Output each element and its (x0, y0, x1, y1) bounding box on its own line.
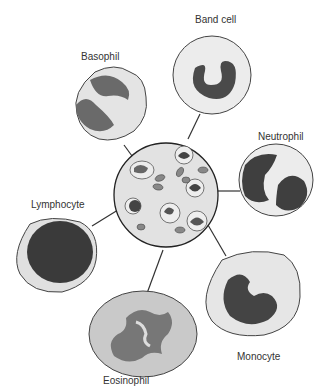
label-monocyte: Monocyte (237, 351, 280, 362)
label-lymphocyte: Lymphocyte (31, 199, 85, 210)
lymphocyte-illustration (17, 218, 97, 292)
label-eosinophil: Eosinophil (103, 375, 149, 386)
basophil-illustration (76, 67, 147, 140)
label-neutrophil: Neutrophil (258, 131, 304, 142)
eosinophil-illustration (89, 291, 197, 377)
blood-smear-circle (114, 143, 218, 247)
band-cell-illustration (173, 36, 251, 114)
neutrophil-illustration (239, 144, 313, 216)
diagram-canvas (0, 0, 331, 388)
monocyte-illustration (206, 251, 300, 335)
label-band-cell: Band cell (195, 14, 236, 25)
label-basophil: Basophil (81, 51, 119, 62)
